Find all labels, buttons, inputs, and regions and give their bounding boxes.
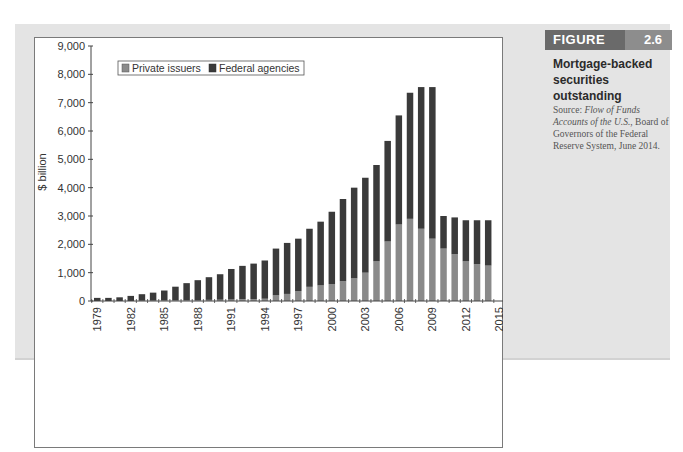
legend-label-federal-agencies: Federal agencies xyxy=(219,62,300,74)
bar-private-issuers xyxy=(351,278,358,301)
y-tick-label: 0 xyxy=(79,295,85,307)
bar-private-issuers xyxy=(373,261,380,301)
bar-federal-agencies xyxy=(451,217,458,254)
bar-federal-agencies xyxy=(195,280,202,300)
bar-federal-agencies xyxy=(161,291,168,301)
bar-federal-agencies xyxy=(262,260,269,298)
bar-federal-agencies xyxy=(474,220,481,264)
x-tick-label: 2009 xyxy=(426,307,438,331)
legend-swatch-federal-agencies xyxy=(209,64,216,72)
x-tick-label: 1994 xyxy=(259,307,271,331)
bar-federal-agencies xyxy=(351,188,358,279)
y-tick-label: 4,000 xyxy=(57,182,85,194)
stacked-bar-chart: 01,0002,0003,0004,0005,0006,0007,0008,00… xyxy=(34,37,503,448)
bar-private-issuers xyxy=(295,291,302,301)
bar-private-issuers xyxy=(407,219,414,301)
bar-private-issuers xyxy=(340,281,347,301)
bar-private-issuers xyxy=(440,249,447,301)
figure-tag: FIGURE 2.6 xyxy=(545,30,672,50)
x-tick-label: 2015 xyxy=(493,307,503,331)
y-tick-label: 5,000 xyxy=(57,153,85,165)
bar-private-issuers xyxy=(396,225,403,302)
bar-federal-agencies xyxy=(150,293,157,301)
legend-swatch-private-issuers xyxy=(122,64,129,72)
legend-label-private-issuers: Private issuers xyxy=(132,62,201,74)
y-tick-label: 3,000 xyxy=(57,210,85,222)
source-prefix: Source: xyxy=(553,105,584,115)
x-tick-label: 1997 xyxy=(292,307,304,331)
bar-federal-agencies xyxy=(295,239,302,291)
bar-private-issuers xyxy=(306,287,313,301)
bar-private-issuers xyxy=(429,239,436,301)
bar-federal-agencies xyxy=(373,165,380,261)
x-tick-label: 1988 xyxy=(192,307,204,331)
bar-federal-agencies xyxy=(228,269,235,300)
bar-federal-agencies xyxy=(485,220,492,265)
legend: Private issuers Federal agencies xyxy=(118,61,304,75)
bar-federal-agencies xyxy=(384,141,391,242)
bar-federal-agencies xyxy=(128,296,135,301)
y-tick-label: 1,000 xyxy=(57,267,85,279)
bar-federal-agencies xyxy=(340,199,347,281)
bar-federal-agencies xyxy=(139,294,146,301)
bar-federal-agencies xyxy=(217,274,224,300)
bar-private-issuers xyxy=(317,285,324,301)
x-tick-label: 2000 xyxy=(326,307,338,331)
bar-federal-agencies xyxy=(306,229,313,287)
bar-private-issuers xyxy=(384,242,391,302)
chart-container: 01,0002,0003,0004,0005,0006,0007,0008,00… xyxy=(34,37,503,448)
bar-private-issuers xyxy=(474,264,481,301)
figure-number: 2.6 xyxy=(644,30,662,50)
bar-federal-agencies xyxy=(362,178,369,273)
bar-private-issuers xyxy=(329,284,336,301)
bar-federal-agencies xyxy=(418,87,425,229)
bar-federal-agencies xyxy=(239,266,246,299)
bar-federal-agencies xyxy=(463,220,470,261)
bar-federal-agencies xyxy=(116,297,123,301)
bar-private-issuers xyxy=(284,294,291,301)
bar-federal-agencies xyxy=(250,264,257,299)
bar-federal-agencies xyxy=(396,115,403,224)
y-tick-label: 6,000 xyxy=(57,125,85,137)
x-tick-label: 2003 xyxy=(359,307,371,331)
bar-federal-agencies xyxy=(172,287,179,301)
bar-private-issuers xyxy=(451,254,458,301)
bar-private-issuers xyxy=(485,266,492,301)
bar-federal-agencies xyxy=(407,93,414,219)
x-tick-label: 1991 xyxy=(225,307,237,331)
y-tick-label: 7,000 xyxy=(57,97,85,109)
bar-private-issuers xyxy=(362,273,369,301)
x-tick-label: 2012 xyxy=(460,307,472,331)
bar-federal-agencies xyxy=(317,222,324,286)
bar-federal-agencies xyxy=(329,212,336,284)
bar-federal-agencies xyxy=(440,216,447,249)
figure-label: FIGURE xyxy=(545,30,625,50)
bar-federal-agencies xyxy=(429,87,436,239)
bar-federal-agencies xyxy=(206,277,213,300)
x-tick-label: 1979 xyxy=(91,307,103,331)
y-tick-label: 2,000 xyxy=(57,238,85,250)
bar-private-issuers xyxy=(273,295,280,301)
bar-private-issuers xyxy=(418,229,425,301)
y-tick-label: 8,000 xyxy=(57,68,85,80)
bar-private-issuers xyxy=(463,261,470,301)
bar-federal-agencies xyxy=(273,249,280,296)
figure-source: Source: Flow of Funds Accounts of the U.… xyxy=(553,104,673,152)
y-axis-label: $ billion xyxy=(36,153,48,190)
y-tick-label: 9,000 xyxy=(57,40,85,52)
x-tick-label: 1982 xyxy=(125,307,137,331)
bar-federal-agencies xyxy=(284,243,291,294)
figure-title: Mortgage-backed securities outstanding xyxy=(553,56,673,104)
bar-federal-agencies xyxy=(183,283,190,300)
x-tick-label: 2006 xyxy=(393,307,405,331)
x-tick-label: 1985 xyxy=(158,307,170,331)
